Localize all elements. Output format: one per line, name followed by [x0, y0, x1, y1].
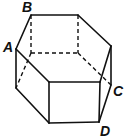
- prism-edge: [99, 85, 111, 122]
- hexagonal-prism-figure: B A C D: [0, 0, 133, 140]
- vertex-label-c: C: [113, 84, 123, 98]
- prism-edge: [99, 82, 100, 122]
- prism-edge: [78, 15, 111, 46]
- vertex-label-a: A: [3, 40, 13, 54]
- prism-edge: [16, 49, 49, 82]
- vertex-label-d: D: [100, 124, 110, 138]
- prism-edge: [16, 15, 31, 49]
- prism-edge: [78, 53, 111, 85]
- prism-drawing: [0, 0, 133, 140]
- prism-edge: [16, 88, 49, 123]
- prism-edge: [100, 46, 111, 82]
- prism-edge: [16, 53, 31, 88]
- prism-edge: [49, 122, 99, 123]
- vertex-label-b: B: [22, 0, 32, 14]
